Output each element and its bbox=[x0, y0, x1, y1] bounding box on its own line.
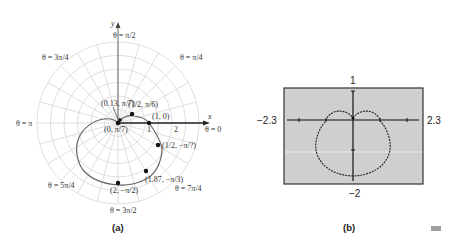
angle-label-5pi-over-4: θ = 5π/4 bbox=[48, 181, 75, 190]
point-2-minus-pi2 bbox=[116, 181, 120, 185]
panel-a: x y 1 2 (0.13, π/7) (1/2, π/6) (1, 0) (0… bbox=[16, 19, 221, 233]
window-xmin: −2.3 bbox=[257, 115, 277, 126]
figure-canvas: x y 1 2 (0.13, π/7) (1/2, π/6) (1, 0) (0… bbox=[0, 0, 450, 249]
point-1-87-minus-pi3 bbox=[144, 169, 148, 173]
label-1-87-minus-pi3: (1.87, −π/3) bbox=[145, 175, 183, 184]
window-ymin: −2 bbox=[349, 188, 361, 199]
label-2-minus-pi2: (2, −π/2) bbox=[110, 186, 138, 195]
angle-label-zero: θ = 0 bbox=[205, 125, 221, 134]
label-1-0: (1, 0) bbox=[152, 112, 170, 121]
angle-label-7pi-over-4: θ = 7π/4 bbox=[175, 184, 202, 193]
y-axis-arrow-icon bbox=[116, 22, 121, 28]
angle-label-3pi-over-2: θ = 3π/2 bbox=[110, 206, 137, 215]
tick-label-2: 2 bbox=[174, 125, 178, 134]
window-ymax: 1 bbox=[350, 75, 356, 86]
point-0-13-pi7 bbox=[118, 118, 122, 122]
window-xmax: 2.3 bbox=[427, 115, 441, 126]
x-axis-label: x bbox=[207, 112, 212, 121]
label-minus-pi6: (1/2, −π/?) bbox=[162, 141, 196, 150]
calc-origin-dot bbox=[352, 117, 355, 120]
label-origin: (0, π/7) bbox=[104, 125, 128, 134]
label-half-pi6: (1/2, π/6) bbox=[128, 100, 158, 109]
point-half-pi6 bbox=[130, 112, 134, 116]
angle-label-pi: θ = π bbox=[16, 119, 32, 128]
angle-label-pi-over-4: θ = π/4 bbox=[180, 53, 203, 62]
point-minus-pi6 bbox=[156, 143, 160, 147]
angle-label-3pi-over-4: θ = 3π/4 bbox=[42, 53, 69, 62]
panel-b: 1 −2 −2.3 2.3 (b) bbox=[257, 75, 441, 233]
tick-label-1: 1 bbox=[147, 125, 151, 134]
point-1-0 bbox=[147, 121, 151, 125]
end-marker bbox=[431, 226, 441, 231]
angle-label-pi-over-2: θ = π/2 bbox=[113, 31, 136, 40]
caption-a: (a) bbox=[112, 222, 124, 233]
y-axis-label: y bbox=[110, 19, 115, 28]
caption-b: (b) bbox=[343, 222, 355, 233]
